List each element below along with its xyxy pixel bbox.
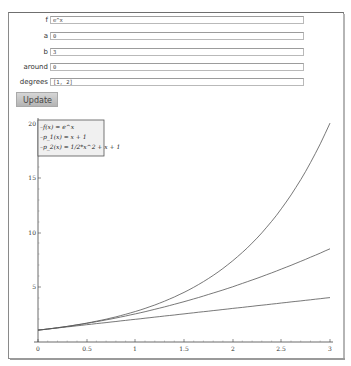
x-tick-0: 0	[36, 345, 40, 352]
x-tick-3: 3	[328, 345, 332, 352]
legend-item-p2: –p_2(x) = 1/2*x^2 + x + 1	[40, 143, 120, 151]
y-tick-10: 10	[28, 229, 36, 236]
x-tick-2: 2	[231, 345, 235, 352]
x-tick-1.5: 1.5	[179, 345, 189, 352]
taylor-plot: 0 0.5 1 1.5 2 2.5 3 5 10 15 20 –f(x) = e…	[0, 0, 351, 366]
y-tick-labels: 5 10 15 20	[28, 120, 36, 290]
x-tick-labels: 0 0.5 1 1.5 2 2.5 3	[36, 345, 332, 352]
x-tick-0.5: 0.5	[82, 345, 92, 352]
x-tick-1: 1	[133, 345, 137, 352]
x-ticks	[38, 339, 330, 342]
curve-p2	[38, 249, 330, 330]
curve-p1	[38, 298, 330, 331]
legend-item-f: –f(x) = e^x	[40, 123, 75, 131]
legend-item-p1: –p_1(x) = x + 1	[40, 133, 87, 141]
x-tick-2.5: 2.5	[276, 345, 286, 352]
y-tick-20: 20	[28, 120, 36, 127]
y-tick-5: 5	[32, 283, 36, 290]
y-tick-15: 15	[28, 174, 36, 181]
plot-legend: –f(x) = e^x –p_1(x) = x + 1 –p_2(x) = 1/…	[38, 120, 120, 156]
